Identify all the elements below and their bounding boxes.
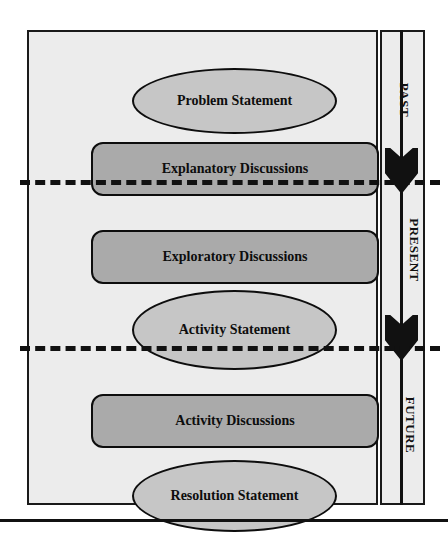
phase-label-future: FUTURE [382,417,427,433]
bottom-rule [0,519,448,522]
node-exploratory-discussions[interactable]: Exploratory Discussions [91,230,379,284]
phase-label-past-text: PAST [396,83,412,117]
node-problem-statement[interactable]: Problem Statement [132,68,337,134]
node-activity-discussions[interactable]: Activity Discussions [91,394,379,448]
past-present-divider [20,180,440,185]
phase-label-future-text: FUTURE [402,397,418,453]
phase-label-past: PAST [382,92,427,108]
phase-label-present: PRESENT [382,242,427,258]
node-explanatory-discussions[interactable]: Explanatory Discussions [91,142,379,196]
phase-label-present-text: PRESENT [406,218,422,281]
present-future-divider [20,346,440,351]
node-activity-statement[interactable]: Activity Statement [132,290,337,370]
process-panel: Problem Statement Explanatory Discussion… [27,30,378,505]
diagram-figure: Problem Statement Explanatory Discussion… [0,0,448,537]
timeline-spine-line [400,30,403,505]
bottom-caption [8,527,438,537]
